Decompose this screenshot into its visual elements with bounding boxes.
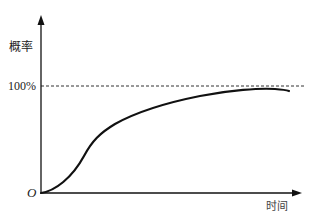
chart: 概率 100% O 时间 <box>0 0 315 224</box>
x-axis-arrow-icon <box>292 190 302 197</box>
x-axis-label: 时间 <box>266 197 288 213</box>
origin-label: O <box>27 185 36 201</box>
y-axis-arrow-icon <box>38 15 45 25</box>
probability-curve <box>41 89 289 193</box>
chart-canvas <box>0 0 315 224</box>
y-tick-100-label: 100% <box>8 79 36 94</box>
y-axis-label: 概率 <box>9 37 33 54</box>
